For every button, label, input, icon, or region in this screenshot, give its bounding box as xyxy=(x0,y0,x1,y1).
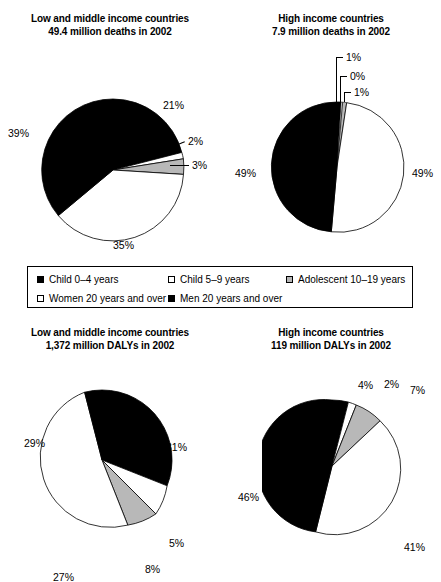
chart-title-line1: High income countries xyxy=(278,327,384,338)
legend-swatch-black-icon xyxy=(37,276,44,283)
chart-title-deaths-high: High income countries 7.9 million deaths… xyxy=(221,12,441,38)
pie-deaths-high xyxy=(268,98,406,236)
legend-swatch-black-icon xyxy=(168,295,175,302)
leader-line-3pct xyxy=(170,165,189,166)
pie-label-49pct-left: 49% xyxy=(235,168,256,179)
pie-label-1pct-top: 1% xyxy=(346,52,361,63)
legend-box: Child 0–4 years Child 5–9 years Adolesce… xyxy=(27,266,413,308)
pie-dalys-low-middle xyxy=(28,386,176,534)
pie-svg xyxy=(28,386,176,534)
leader-tick-1pct-top xyxy=(336,57,343,58)
legend-row-1: Child 0–4 years Child 5–9 years Adolesce… xyxy=(28,272,412,286)
legend-item-women-20-over[interactable]: Women 20 years and over xyxy=(37,293,166,304)
pie-label-4pct: 4% xyxy=(358,380,373,391)
chart-panel-deaths-high: High income countries 7.9 million deaths… xyxy=(221,0,441,262)
chart-title-line1: High income countries xyxy=(278,13,384,24)
pie-label-5pct: 5% xyxy=(169,538,184,549)
pie-label-41pct: 41% xyxy=(404,542,425,553)
legend-item-child-5-9[interactable]: Child 5–9 years xyxy=(168,274,249,285)
leader-line-1pct-top xyxy=(336,57,337,102)
pie-svg xyxy=(262,396,402,536)
chart-panel-dalys-low-middle: Low and middle income countries 1,372 mi… xyxy=(0,318,220,582)
pie-label-2pct: 2% xyxy=(384,379,399,390)
legend-swatch-gray-icon xyxy=(286,276,293,283)
legend-label: Women 20 years and over xyxy=(49,293,166,304)
pie-label-21pct: 21% xyxy=(163,100,184,111)
pie-label-29pct: 29% xyxy=(24,438,45,449)
legend-label: Child 0–4 years xyxy=(49,274,118,285)
pie-svg xyxy=(38,95,188,245)
pie-label-0pct: 0% xyxy=(350,71,365,82)
pie-label-46pct: 46% xyxy=(238,492,259,503)
legend-label: Adolescent 10–19 years xyxy=(298,274,405,285)
pie-deaths-low-middle xyxy=(38,95,188,245)
legend-label: Child 5–9 years xyxy=(180,274,249,285)
pie-label-49pct-right: 49% xyxy=(412,168,433,179)
legend-swatch-white-icon xyxy=(168,276,175,283)
leader-tick-0pct xyxy=(340,76,347,77)
legend-swatch-white-icon xyxy=(37,295,44,302)
chart-subtitle-line: 49.4 million deaths in 2002 xyxy=(0,25,220,38)
chart-title-line1: Low and middle income countries xyxy=(31,13,189,24)
pie-label-1pct-lower: 1% xyxy=(354,87,369,98)
chart-title-dalys-high: High income countries 119 million DALYs … xyxy=(221,326,441,352)
leader-tick-1pct-lower xyxy=(344,92,351,93)
leader-line-0pct xyxy=(340,76,341,102)
pie-slice-men-20-over xyxy=(271,102,337,232)
legend-item-child-0-4[interactable]: Child 0–4 years xyxy=(37,274,118,285)
pie-label-31pct: 31% xyxy=(166,442,187,453)
chart-subtitle-line: 119 million DALYs in 2002 xyxy=(221,339,441,352)
pie-slices xyxy=(40,390,172,527)
chart-subtitle-line: 1,372 million DALYs in 2002 xyxy=(0,339,220,352)
legend-item-men-20-over[interactable]: Men 20 years and over xyxy=(168,293,282,304)
chart-panel-dalys-high: High income countries 119 million DALYs … xyxy=(221,318,441,582)
pie-slices xyxy=(271,102,404,232)
pie-label-35pct: 35% xyxy=(113,240,134,251)
chart-title-line1: Low and middle income countries xyxy=(31,327,189,338)
chart-title-deaths-low-middle: Low and middle income countries 49.4 mil… xyxy=(0,12,220,38)
pie-label-27pct: 27% xyxy=(53,572,74,582)
pie-dalys-high xyxy=(262,396,402,536)
legend-item-adolescent-10-19[interactable]: Adolescent 10–19 years xyxy=(286,274,405,285)
chart-panel-deaths-low-middle: Low and middle income countries 49.4 mil… xyxy=(0,0,220,262)
pie-slices xyxy=(262,399,401,534)
chart-title-dalys-low-middle: Low and middle income countries 1,372 mi… xyxy=(0,326,220,352)
leader-line-1pct-lower xyxy=(344,92,345,102)
pie-label-3pct: 3% xyxy=(192,160,207,171)
pie-svg xyxy=(268,98,406,236)
pie-slices xyxy=(42,99,184,241)
pie-label-7pct: 7% xyxy=(410,385,425,396)
chart-subtitle-line: 7.9 million deaths in 2002 xyxy=(221,25,441,38)
pie-label-2pct: 2% xyxy=(188,136,203,147)
legend-row-2: Women 20 years and over Men 20 years and… xyxy=(28,291,412,305)
pie-label-39pct: 39% xyxy=(8,128,29,139)
pie-label-8pct: 8% xyxy=(145,564,160,575)
legend-label: Men 20 years and over xyxy=(180,293,282,304)
